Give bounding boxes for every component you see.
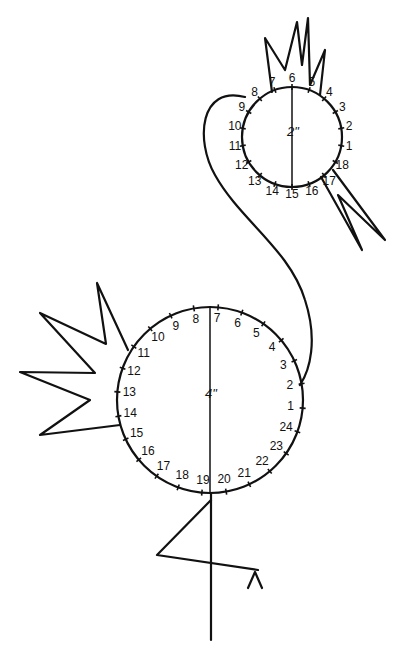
position-number: 18 <box>336 158 350 172</box>
body-diameter-label: 4" <box>205 386 218 401</box>
position-number: 24 <box>279 420 293 434</box>
position-number: 1 <box>346 139 353 153</box>
position-number: 17 <box>157 459 171 473</box>
position-number: 6 <box>289 71 296 85</box>
position-number: 5 <box>308 75 315 89</box>
position-number: 16 <box>141 444 155 458</box>
position-number: 13 <box>123 385 137 399</box>
position-number: 14 <box>124 406 138 420</box>
position-number: 8 <box>251 85 258 99</box>
position-number: 12 <box>235 158 249 172</box>
position-number: 12 <box>127 364 141 378</box>
position-number: 9 <box>238 100 245 114</box>
position-number: 2 <box>286 378 293 392</box>
position-number: 14 <box>265 184 279 198</box>
position-number: 7 <box>214 311 221 325</box>
position-number: 18 <box>176 468 190 482</box>
position-number: 5 <box>253 326 260 340</box>
position-number: 10 <box>151 330 165 344</box>
bird-string-art-pattern: 2" 123456789101112131415161718 4" 123456… <box>0 0 406 655</box>
position-number: 1 <box>287 399 294 413</box>
position-number: 10 <box>228 119 242 133</box>
wing <box>20 283 128 435</box>
position-number: 8 <box>193 312 200 326</box>
position-number: 16 <box>305 184 319 198</box>
position-number: 20 <box>217 472 231 486</box>
position-number: 19 <box>196 473 210 487</box>
position-number: 4 <box>269 340 276 354</box>
foot <box>248 572 262 588</box>
position-number: 4 <box>326 85 333 99</box>
position-number: 11 <box>229 139 242 153</box>
position-number: 11 <box>137 346 150 360</box>
position-number: 2 <box>346 119 353 133</box>
position-number: 7 <box>269 75 276 89</box>
position-number: 3 <box>280 358 287 372</box>
head-diameter-label: 2" <box>286 124 300 139</box>
position-number: 22 <box>255 454 269 468</box>
position-number: 6 <box>234 316 241 330</box>
position-number: 9 <box>172 319 179 333</box>
leg-thigh <box>157 500 258 570</box>
position-number: 23 <box>270 439 284 453</box>
position-number: 3 <box>339 100 346 114</box>
position-number: 15 <box>130 426 144 440</box>
position-number: 21 <box>238 466 252 480</box>
